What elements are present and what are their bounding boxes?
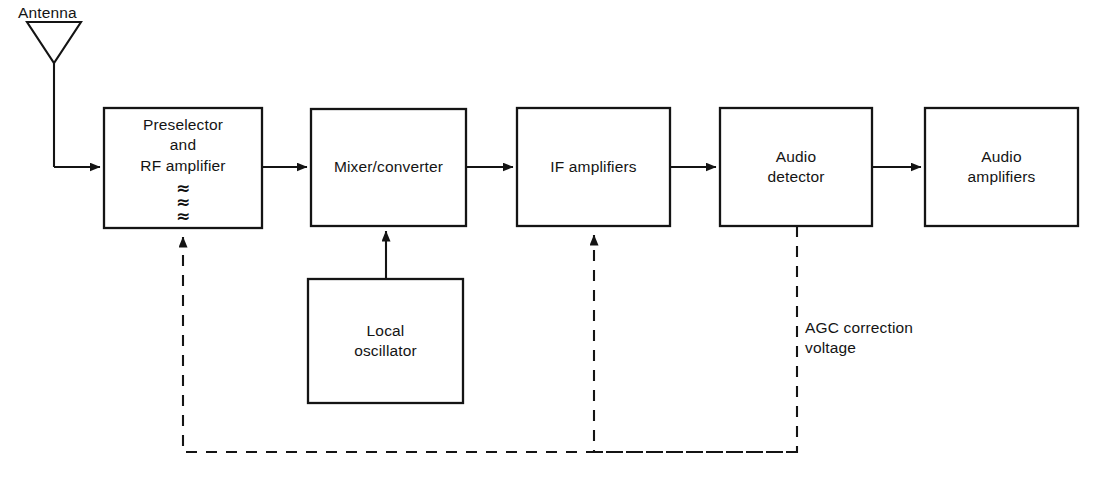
ganged-tuning-icon: ≈ ≈ ≈ (104, 182, 262, 224)
block-diagram-canvas: Antenna Preselector and RF amplifier ≈ ≈… (0, 0, 1095, 481)
antenna-symbol (27, 22, 81, 167)
agc-correction-voltage-label: AGC correction voltage (805, 318, 913, 358)
connector-agc-audio-detector-to-if-amplifiers (594, 226, 797, 452)
antenna-label: Antenna (18, 3, 77, 23)
block-audio-detector[interactable] (720, 108, 872, 226)
block-audio-amplifiers[interactable] (925, 108, 1078, 226)
diagram-vector-layer (0, 0, 1095, 481)
connector-agc-audio-detector-to-preselector (183, 237, 797, 452)
block-if-amplifiers[interactable] (517, 108, 670, 226)
block-mixer-converter[interactable] (311, 109, 466, 226)
block-local-oscillator[interactable] (308, 279, 463, 403)
